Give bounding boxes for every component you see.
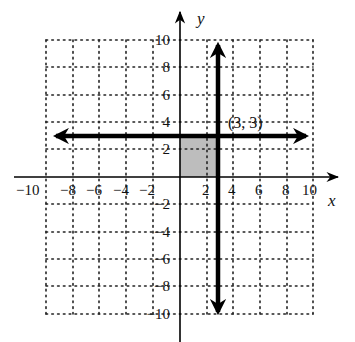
- x-tick-label: −8: [60, 182, 76, 198]
- point-label: (3, 3): [228, 114, 263, 132]
- x-tick-label: −6: [86, 182, 102, 198]
- y-tick-label: −10: [147, 306, 170, 322]
- y-tick-label: 4: [163, 114, 171, 130]
- shaded-region: [180, 136, 218, 177]
- x-tick-label: 8: [282, 182, 290, 198]
- x-tick-label: −4: [113, 182, 129, 198]
- y-tick-label: 8: [163, 59, 171, 75]
- y-tick-label: 6: [163, 87, 171, 103]
- x-tick-label: −2: [139, 182, 155, 198]
- x-tick-label: 4: [228, 182, 236, 198]
- y-tick-label: −6: [154, 251, 170, 267]
- coordinate-plane: y x (3, 3) −10 −8 −6 −4 −2 2 4 6 8 10 10…: [0, 0, 355, 342]
- x-axis-label: x: [327, 191, 336, 210]
- y-tick-label: 2: [163, 141, 171, 157]
- x-tick-label: −10: [16, 182, 39, 198]
- y-tick-label: 10: [155, 32, 170, 48]
- x-tick-label: 10: [302, 182, 317, 198]
- y-tick-label: −8: [154, 278, 170, 294]
- x-tick-label: 2: [202, 182, 210, 198]
- x-tick-label: 6: [255, 182, 263, 198]
- y-tick-label: −4: [154, 224, 170, 240]
- y-tick-label: −2: [154, 196, 170, 212]
- y-axis-label: y: [195, 9, 205, 28]
